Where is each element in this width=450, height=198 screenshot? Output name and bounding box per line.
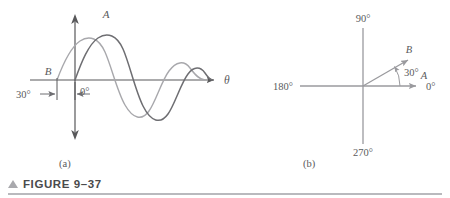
phasor-label-0: 0°: [426, 81, 435, 92]
theta-axis-label: θ: [224, 74, 230, 86]
waveform-curve-b: [57, 38, 205, 117]
phasor-label-b: B: [406, 44, 413, 55]
figure-container: A B 0° 30° θ: [0, 0, 450, 198]
phasor-panel: 30° B A 90° 180° 270° 0°: [273, 13, 435, 158]
figure-caption-bar: FIGURE 9–37: [8, 178, 442, 190]
origin-degree-label: 0°: [80, 86, 89, 97]
phasor-angle-label: 30°: [404, 67, 419, 78]
phasor-label-180: 180°: [273, 81, 293, 92]
phasor-label-a: A: [420, 70, 428, 81]
caption-divider: [8, 193, 442, 195]
triangle-up-icon: [8, 180, 18, 188]
waveform-panel: A B 0° 30° θ: [16, 8, 230, 140]
offset-degree-label: 30°: [16, 89, 31, 100]
phasor-vector-b: [363, 60, 408, 86]
waveform-label-a: A: [102, 8, 110, 20]
angle-arc: [395, 67, 401, 87]
waveform-curve-a: [75, 35, 212, 120]
panel-a-sublabel: (a): [59, 158, 71, 169]
figure-caption-text: FIGURE 9–37: [23, 178, 102, 190]
panel-b-sublabel: (b): [303, 158, 315, 169]
phasor-label-270: 270°: [353, 147, 373, 158]
waveform-label-b: B: [45, 65, 52, 77]
phasor-label-90: 90°: [356, 13, 371, 24]
